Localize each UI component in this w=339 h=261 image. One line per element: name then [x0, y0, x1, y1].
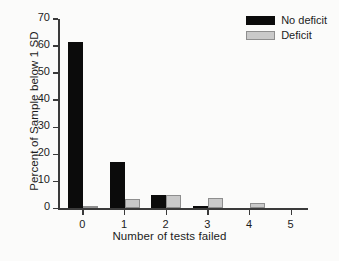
x-tick-label: 3 — [197, 218, 217, 230]
y-tick-label: 40 — [38, 92, 50, 104]
legend-swatch-deficit — [246, 31, 275, 40]
bar-deficit-1 — [125, 199, 140, 208]
bar-deficit-3 — [208, 198, 223, 209]
x-tick: 4 — [249, 210, 250, 215]
y-tick-label: 70 — [38, 11, 50, 23]
bar-deficit-0 — [83, 206, 98, 209]
legend-label: Deficit — [281, 29, 312, 41]
bar-deficit-4 — [250, 203, 265, 208]
x-tick-label: 5 — [281, 218, 301, 230]
x-tick-label: 1 — [114, 218, 134, 230]
x-tick-label: 0 — [72, 218, 92, 230]
chart-legend: No deficitDeficit — [246, 14, 327, 41]
x-tick: 2 — [166, 210, 167, 215]
x-axis-title: Number of tests failed — [0, 230, 339, 242]
y-tick-label: 30 — [38, 119, 50, 131]
bar-no-deficit-3 — [193, 206, 208, 209]
y-tick: 60 — [53, 45, 58, 46]
y-tick-label: 10 — [38, 173, 50, 185]
y-tick-label: 50 — [38, 65, 50, 77]
y-tick: 30 — [53, 127, 58, 128]
x-tick: 0 — [82, 210, 83, 215]
bar-no-deficit-0 — [68, 42, 83, 208]
bar-no-deficit-2 — [151, 195, 166, 209]
bar-chart-figure: Percent of Sample below 1 SD 01020304050… — [0, 0, 339, 261]
y-tick: 50 — [53, 72, 58, 73]
legend-item-deficit: Deficit — [246, 29, 327, 41]
x-tick: 3 — [207, 210, 208, 215]
y-tick: 40 — [53, 99, 58, 100]
legend-item-no-deficit: No deficit — [246, 14, 327, 26]
x-tick-label: 4 — [239, 218, 259, 230]
x-tick: 5 — [291, 210, 292, 215]
y-tick-label: 20 — [38, 146, 50, 158]
plot-area: 010203040506070 012345 — [58, 19, 308, 210]
y-tick: 0 — [53, 208, 58, 209]
y-tick: 10 — [53, 181, 58, 182]
legend-swatch-no-deficit — [246, 16, 275, 25]
bar-deficit-2 — [166, 195, 181, 209]
y-tick-label: 60 — [38, 38, 50, 50]
y-tick: 70 — [53, 18, 58, 19]
x-tick-label: 2 — [156, 218, 176, 230]
y-tick: 20 — [53, 154, 58, 155]
y-axis-line — [58, 19, 60, 210]
x-axis-line — [58, 208, 308, 210]
bar-no-deficit-1 — [110, 162, 125, 208]
y-tick-label: 0 — [44, 200, 50, 212]
legend-label: No deficit — [281, 14, 327, 26]
x-tick: 1 — [124, 210, 125, 215]
